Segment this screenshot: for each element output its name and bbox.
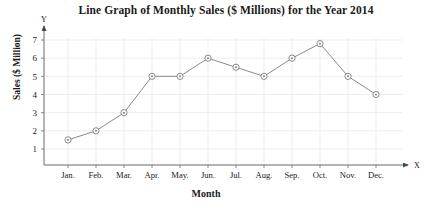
y-tick-label: 5 <box>33 72 38 82</box>
x-tick-label: Jun. <box>201 170 215 180</box>
data-point <box>289 55 295 61</box>
x-axis-letter: X <box>414 161 420 170</box>
x-tick-label: Aug. <box>256 170 273 180</box>
y-tick-label: 4 <box>33 90 38 100</box>
y-tick-label: 7 <box>33 35 38 45</box>
x-tick-label: Dec. <box>368 170 384 180</box>
x-tick-label: Jan. <box>61 170 75 180</box>
data-point <box>177 73 183 79</box>
x-tick-label: Mar. <box>116 170 132 180</box>
y-tick-label: 3 <box>33 108 38 118</box>
data-point <box>233 64 239 70</box>
x-tick-label: Sep. <box>284 170 299 180</box>
x-tick-label: Jul. <box>230 170 242 180</box>
data-point <box>317 41 323 47</box>
y-axis-tick-labels: 1234567 <box>33 35 38 154</box>
x-tick-label: Feb. <box>88 170 103 180</box>
data-point <box>149 73 155 79</box>
x-tick-label: May. <box>171 170 188 180</box>
line-chart: Line Graph of Monthly Sales ($ Millions)… <box>0 0 430 210</box>
x-tick-label: Nov. <box>340 170 356 180</box>
y-axis-letter: Y <box>41 15 47 24</box>
data-point <box>205 55 211 61</box>
data-point <box>65 137 71 143</box>
data-point-markers <box>65 41 379 143</box>
x-tick-label: Oct. <box>313 170 328 180</box>
y-tick-label: 1 <box>33 144 38 154</box>
plot-area: Y X Jan.Feb.Mar.Apr.May.Jun.Jul.Aug.Sep.… <box>0 0 430 210</box>
y-tick-label: 6 <box>33 53 38 63</box>
data-point <box>121 110 127 116</box>
data-point <box>373 91 379 97</box>
data-point <box>345 73 351 79</box>
data-point <box>93 128 99 134</box>
data-point <box>261 73 267 79</box>
vertical-gridlines <box>68 38 376 165</box>
x-tick-label: Apr. <box>144 170 159 180</box>
x-axis-tick-labels: Jan.Feb.Mar.Apr.May.Jun.Jul.Aug.Sep.Oct.… <box>61 170 384 180</box>
y-tick-label: 2 <box>33 126 38 136</box>
